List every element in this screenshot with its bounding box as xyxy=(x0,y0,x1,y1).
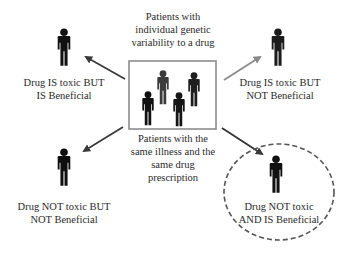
center-top-caption: Patients with individual genetic variabi… xyxy=(123,10,223,49)
outcome-label-top-right: Drug IS toxic BUT NOT Beneficial xyxy=(224,76,336,102)
outcome-label-bottom-right: Drug NOT toxic AND IS Beneficial xyxy=(224,200,334,226)
person-icon-bottom-left xyxy=(58,148,71,185)
patient-group-box xyxy=(129,61,216,129)
person-icon-top-left xyxy=(58,28,71,65)
person-icon-top-right xyxy=(272,28,285,65)
arrow-bottom-right xyxy=(222,128,262,154)
outcome-label-bottom-left: Drug NOT toxic BUT NOT Beneficial xyxy=(6,200,122,226)
center-bottom-caption: Patients with the same illness and the s… xyxy=(118,132,228,184)
outcome-label-top-left: Drug IS toxic BUT IS Beneficial xyxy=(8,76,120,102)
person-icon-bottom-right xyxy=(270,155,283,192)
